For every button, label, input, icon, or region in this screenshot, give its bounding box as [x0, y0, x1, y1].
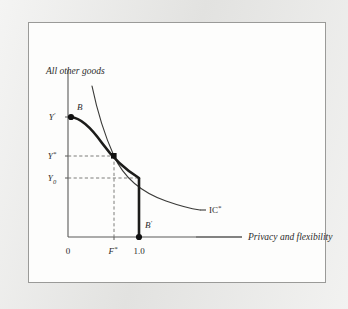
- plot-panel: [28, 22, 326, 283]
- figure-root: All other goods Privacy and flexibility …: [0, 0, 348, 309]
